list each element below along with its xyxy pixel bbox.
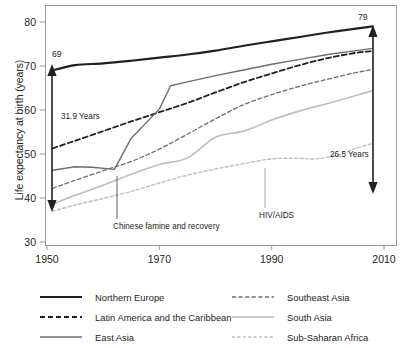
legend: Northern EuropeLatin America and the Car… [40,292,369,343]
y-tick-label: 50 [24,148,36,160]
legend-label-south-asia[interactable]: South Asia [287,312,333,323]
x-tick-label: 1950 [35,253,59,265]
end-value-label: 79 [358,12,368,22]
left-gap-arrow [47,64,56,212]
x-tick-label: 1990 [260,253,284,265]
start-value-label: 69 [52,49,62,59]
legend-label-east-asia[interactable]: East Asia [95,332,135,343]
series-line-northern-europe [53,26,373,70]
legend-label-sub-saharan-africa[interactable]: Sub-Saharan Africa [287,332,369,343]
data-series-group [53,26,373,211]
y-tick-label: 30 [24,236,36,248]
line-chart-canvas: 304050607080 1950197019902010 31.9 Years… [0,0,411,348]
series-line-sub-saharan-africa [53,143,373,211]
series-line-east-asia [53,48,373,170]
y-tick-label: 60 [24,104,36,116]
legend-label-latin-america-and-the-caribbean[interactable]: Latin America and the Caribbean [95,312,232,323]
plot-frame [46,6,397,246]
famine-annotation-label: Chinese famine and recovery [113,222,220,231]
series-line-latin-america-and-the-caribbean [53,51,373,148]
series-line-south-asia [53,91,373,205]
legend-label-southeast-asia[interactable]: Southeast Asia [287,292,350,303]
y-axis-ticks: 304050607080 [24,16,45,248]
left-gap-label: 31.9 Years [61,112,100,121]
right-gap-arrow [368,25,377,194]
y-tick-label: 70 [24,60,36,72]
chart-figure: Life expectancy at birth (years) 3040506… [0,0,411,348]
y-axis-title: Life expectancy at birth (years) [13,15,25,245]
y-tick-label: 40 [24,192,36,204]
y-tick-label: 80 [24,16,36,28]
x-axis-ticks: 1950197019902010 [35,246,396,266]
x-tick-label: 1970 [148,253,172,265]
hivaids-annotation-label: HIV/AIDS [259,211,295,220]
right-gap-label: 26.5 Years [330,150,369,159]
series-line-southeast-asia [53,70,373,189]
x-tick-label: 2010 [372,253,396,265]
legend-label-northern-europe[interactable]: Northern Europe [95,292,164,303]
